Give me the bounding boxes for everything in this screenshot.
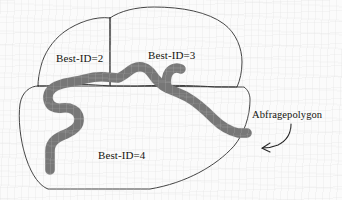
query-polyline-edge <box>48 67 247 170</box>
query-polyline-group[interactable] <box>48 67 247 170</box>
figure-canvas: Best-ID=2 Best-ID=3 Best-ID=4 Abfragepol… <box>0 0 342 200</box>
label-best-id-4: Best-ID=4 <box>98 150 145 161</box>
label-best-id-3: Best-ID=3 <box>148 50 195 61</box>
label-abfragepolygon: Abfragepolygon <box>252 110 322 121</box>
diagram-svg <box>0 0 342 200</box>
label-best-id-2: Best-ID=2 <box>56 53 103 64</box>
annotation-arrow <box>262 124 291 152</box>
